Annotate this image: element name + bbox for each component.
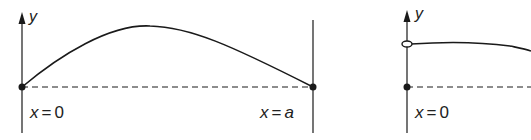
free-end-ring-icon bbox=[402, 41, 412, 47]
right-panel-boundary-label: x=0 bbox=[414, 103, 449, 122]
diagram-canvas: y x=0 x=a y x=0 bbox=[0, 0, 531, 140]
right-boundary-label: x=a bbox=[259, 103, 294, 122]
left-fixed-point-dot bbox=[19, 84, 26, 91]
right-fixed-point-dot bbox=[310, 84, 317, 91]
right-y-axis-label: y bbox=[414, 5, 424, 22]
right-curve bbox=[411, 43, 531, 51]
right-panel: y x=0 bbox=[402, 5, 531, 133]
left-curve bbox=[22, 26, 313, 87]
left-y-axis-arrow-icon bbox=[19, 12, 26, 24]
right-panel-fixed-dot bbox=[404, 84, 411, 91]
left-y-axis-label: y bbox=[28, 8, 38, 25]
left-panel: y x=0 x=a bbox=[19, 8, 317, 133]
right-y-axis-arrow-icon bbox=[404, 10, 411, 22]
left-boundary-label: x=0 bbox=[29, 103, 64, 122]
